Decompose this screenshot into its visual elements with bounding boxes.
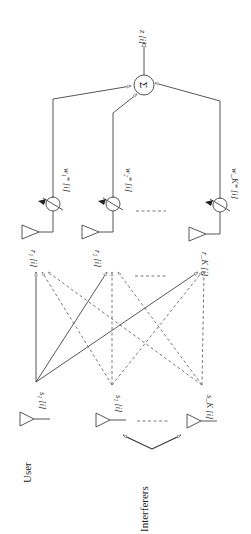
- phase-shifter-2: [98, 197, 123, 211]
- interferer-signal-paths: [42, 272, 204, 385]
- received-signal-label-2: r₂ [i]: [93, 250, 103, 267]
- interferers-bracket: [124, 436, 180, 449]
- user-label: User: [21, 462, 33, 483]
- received-signal-label-1: r₁ [i]: [29, 250, 39, 267]
- interferers-arrow-right: [152, 435, 181, 449]
- sigma-symbol: Σ: [138, 82, 150, 88]
- output-label: z [i]: [138, 29, 148, 44]
- receive-antenna-2: [82, 211, 113, 239]
- user-antenna: [20, 412, 50, 426]
- receive-antenna-1: [22, 211, 53, 239]
- source-signal-label-k: s_K [i]: [205, 395, 215, 419]
- phase-shifter-1: [38, 197, 63, 211]
- interferers-arrow-left: [123, 435, 152, 449]
- weight-label-1: w₁* [i]: [62, 168, 72, 192]
- beamformer-diagram: Σ z [i] w₁* [i] w₂* [i] w_K* [i] r₁ [: [0, 0, 251, 534]
- source-signal-label-1: s₁ [i]: [38, 392, 48, 409]
- source-signal-label-2: s₂ [i]: [114, 395, 124, 412]
- summation-node: Σ: [134, 75, 154, 95]
- branch-line-k: [155, 83, 220, 199]
- receive-antenna-k: [189, 212, 220, 241]
- phase-shifter-k: [205, 198, 230, 212]
- user-signal-paths: [36, 272, 198, 382]
- interferer-antenna-2: [96, 413, 126, 427]
- weight-label-2: w₂* [i]: [124, 168, 134, 192]
- interferers-label: Interferers: [138, 486, 150, 532]
- weight-label-k: w_K* [i]: [230, 168, 240, 199]
